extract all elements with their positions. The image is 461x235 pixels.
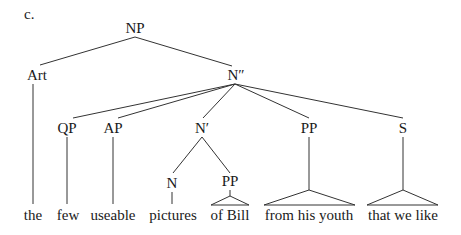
node-np: NP — [125, 20, 144, 36]
node-qp: QP — [57, 120, 76, 136]
node-art: Art — [27, 67, 47, 83]
leaf-useable: useable — [91, 207, 136, 223]
leaf-of-bill: of Bill — [211, 207, 250, 223]
node-pp-bill: PP — [222, 173, 239, 189]
leaf-from-his-youth: from his youth — [265, 207, 353, 223]
node-n-double-bar: N″ — [227, 67, 244, 83]
node-ap: AP — [103, 120, 122, 136]
leaf-the: the — [24, 207, 42, 223]
node-n: N — [167, 175, 178, 191]
leaf-pictures: pictures — [149, 207, 196, 223]
node-s: S — [399, 120, 407, 136]
node-pp-youth: PP — [301, 120, 318, 136]
tree-branches — [0, 0, 461, 235]
node-n-bar: N′ — [195, 120, 209, 136]
leaf-that-we-like: that we like — [368, 207, 438, 223]
leaf-few: few — [57, 207, 80, 223]
